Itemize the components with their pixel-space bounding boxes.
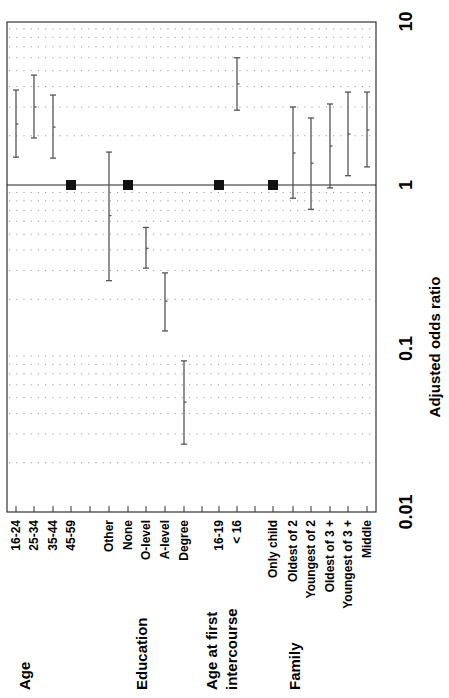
category-label: Oldest of 3 + [323, 520, 337, 592]
category-label: Youngest of 3 + [341, 520, 355, 609]
group-label: intercourse [223, 608, 240, 690]
group-label: Age at first [203, 612, 220, 690]
reference-marker [214, 180, 224, 190]
category-label: Youngest of 2 [304, 520, 318, 599]
reference-marker [123, 180, 133, 190]
reference-marker [66, 180, 76, 190]
value-axis-title: Adjusted odds ratio [426, 277, 443, 418]
group-label: Education [133, 617, 150, 690]
series [13, 58, 370, 444]
reference-marker [268, 180, 278, 190]
category-labels: 16-2425-3435-4445-59OtherNoneO-levelA-le… [9, 520, 374, 609]
value-axis-tick-label: 10 [396, 11, 416, 31]
value-axis-tick-label: 0.01 [396, 494, 416, 529]
category-label: Oldest of 2 [286, 520, 300, 582]
grid-lines [9, 29, 374, 463]
forest-plot: 16-2425-3435-4445-59OtherNoneO-levelA-le… [0, 0, 449, 698]
category-label: Only child [266, 520, 280, 578]
category-label: None [121, 520, 135, 550]
group-label: Family [286, 642, 303, 690]
category-label: Other [102, 520, 116, 552]
category-label: 35-44 [46, 520, 60, 551]
category-label: < 16 [230, 520, 244, 544]
category-label: O-level [139, 520, 153, 560]
value-axis-tick-labels: 0.010.1110 [396, 11, 416, 529]
category-label: 16-19 [212, 520, 226, 551]
category-label: 45-59 [64, 520, 78, 551]
category-ticks [16, 506, 367, 512]
category-label: 16-24 [9, 520, 23, 551]
group-label: Age [16, 662, 33, 690]
plot-frame [7, 22, 376, 512]
category-label: 25-34 [27, 520, 41, 551]
category-label: A-level [158, 520, 172, 559]
value-axis-tick-label: 1 [396, 180, 416, 190]
value-axis-tick-label: 0.1 [396, 336, 416, 361]
category-label: Degree [177, 520, 191, 561]
group-labels: AgeEducationAge at firstintercourseFamil… [16, 608, 303, 690]
category-label: Middle [360, 520, 374, 558]
